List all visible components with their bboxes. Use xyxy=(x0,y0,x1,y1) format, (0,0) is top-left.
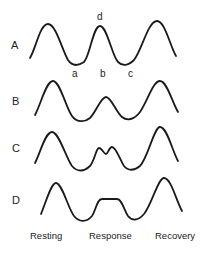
waveform-diagram: A B C D d a b c Resting Response Recover… xyxy=(0,0,208,259)
point-label-b: b xyxy=(100,68,106,79)
waveform-c xyxy=(35,127,178,171)
waveform-a xyxy=(30,21,176,65)
waveform-b xyxy=(35,81,178,121)
phase-label-response: Response xyxy=(89,230,132,241)
phase-label-resting: Resting xyxy=(30,230,62,241)
phase-label-recovery: Recovery xyxy=(155,230,195,241)
waveform-d xyxy=(41,178,182,221)
row-label-b: B xyxy=(12,95,19,107)
point-label-d: d xyxy=(97,11,103,22)
point-label-c: c xyxy=(128,68,133,79)
row-label-a: A xyxy=(11,39,19,51)
point-label-a: a xyxy=(72,68,78,79)
row-label-d: D xyxy=(12,194,20,206)
row-label-c: C xyxy=(12,142,20,154)
